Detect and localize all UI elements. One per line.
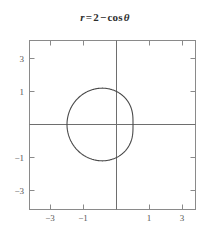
- y-tick-label-1: 1: [4, 87, 24, 97]
- y-tick-label--1: −1: [4, 153, 24, 163]
- y-tick-label-3: 3: [4, 54, 24, 64]
- x-tick-label-3: 3: [180, 213, 185, 223]
- plot-canvas: [0, 0, 210, 241]
- x-tick-label--3: −3: [45, 213, 55, 223]
- y-tick-label--3: −3: [4, 186, 24, 196]
- x-tick-label-1: 1: [147, 213, 152, 223]
- x-tick-label--1: −1: [78, 213, 88, 223]
- polar-plot-figure: r=2−cos θ: [0, 0, 210, 241]
